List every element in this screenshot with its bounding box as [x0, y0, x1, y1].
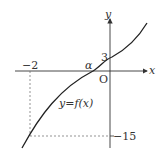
curve-label: y=f(x) — [58, 97, 93, 110]
y-neg15-label: −15 — [113, 130, 136, 143]
x-neg2-label: −2 — [22, 59, 38, 72]
root-alpha-label: α — [85, 59, 93, 72]
y-intercept-label: 3 — [101, 51, 108, 64]
x-axis-label: x — [149, 64, 156, 77]
y-axis-label: y — [104, 8, 112, 21]
origin-label: O — [99, 73, 108, 86]
function-graph: y x O 3 α −2 −15 y=f(x) — [0, 0, 167, 159]
